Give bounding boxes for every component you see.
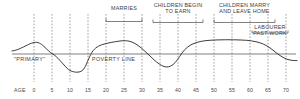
x-tick-50: 50 xyxy=(211,88,217,93)
annotation-children-marry-and-leave-home-line2: AND LEAVE HOME xyxy=(219,8,269,14)
annotation-labourer-past-work-line2: PAST WORK xyxy=(253,30,287,36)
gridlines xyxy=(34,14,286,82)
annotation-children-begin-to-earn: CHILDREN BEGIN TO EARN xyxy=(154,2,203,15)
x-tick-70: 70 xyxy=(283,88,289,93)
annotation-children-begin-to-earn-line1: CHILDREN BEGIN xyxy=(154,2,203,8)
x-tick-55: 55 xyxy=(229,88,235,93)
x-tick-65: 65 xyxy=(265,88,271,93)
x-tick-25: 25 xyxy=(121,88,127,93)
x-tick-30: 30 xyxy=(139,88,145,93)
chart-canvas xyxy=(0,0,300,99)
x-tick-5: 5 xyxy=(50,88,53,93)
x-tick-0: 0 xyxy=(32,88,35,93)
annotation-labourer-past-work: LABOURER PAST WORK xyxy=(253,24,287,37)
income-curve xyxy=(12,40,297,72)
x-axis-name: AGE xyxy=(14,88,26,93)
x-tick-20: 20 xyxy=(103,88,109,93)
x-tick-45: 45 xyxy=(193,88,199,93)
poverty-cycle-chart: MARRIES CHILDREN BEGIN TO EARN CHILDREN … xyxy=(0,0,300,99)
annotation-children-begin-to-earn-line2: TO EARN xyxy=(165,8,190,14)
annotation-children-marry-and-leave-home: CHILDREN MARRY AND LEAVE HOME xyxy=(219,2,270,15)
x-tick-40: 40 xyxy=(175,88,181,93)
x-tick-60: 60 xyxy=(247,88,253,93)
poverty-line-label: POVERTY LINE xyxy=(92,57,135,62)
annotation-marries-line1: MARRIES xyxy=(111,5,137,11)
annotation-children-marry-and-leave-home-line1: CHILDREN MARRY xyxy=(219,2,270,8)
annotation-marries: MARRIES xyxy=(111,5,137,11)
x-tick-15: 15 xyxy=(85,88,91,93)
annotation-labourer-past-work-line1: LABOURER xyxy=(254,24,285,30)
x-tick-35: 35 xyxy=(157,88,163,93)
primary-poverty-label: "PRIMARY" xyxy=(14,57,45,62)
x-tick-10: 10 xyxy=(67,88,73,93)
bracket-children-marry-and-leave-home xyxy=(214,20,275,23)
